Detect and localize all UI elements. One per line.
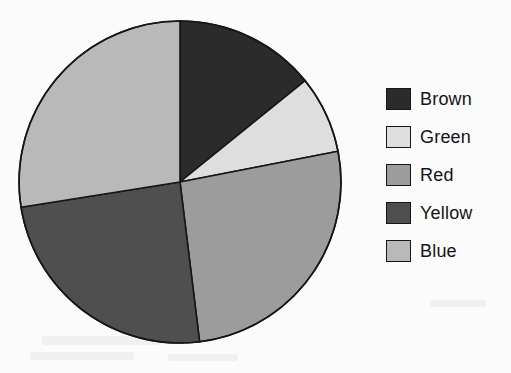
legend-label-yellow: Yellow	[420, 203, 473, 223]
legend-label-brown: Brown	[420, 89, 472, 109]
legend-label-red: Red	[420, 165, 454, 185]
pie-chart-figure: BrownGreenRedYellowBlue	[0, 0, 511, 373]
legend-item-green[interactable]: Green	[386, 118, 506, 156]
legend-item-blue[interactable]: Blue	[386, 232, 506, 270]
legend-item-yellow[interactable]: Yellow	[386, 194, 506, 232]
chart-legend: BrownGreenRedYellowBlue	[386, 80, 506, 270]
pie-slices-group	[19, 21, 341, 343]
legend-swatch-green	[386, 126, 411, 148]
pie-slice-blue[interactable]	[19, 21, 180, 207]
legend-swatch-red	[386, 164, 411, 186]
legend-label-green: Green	[420, 127, 471, 147]
legend-swatch-blue	[386, 240, 411, 262]
legend-item-red[interactable]: Red	[386, 156, 506, 194]
legend-item-brown[interactable]: Brown	[386, 80, 506, 118]
pie-slice-red[interactable]	[180, 151, 341, 342]
legend-swatch-brown	[386, 88, 411, 110]
legend-swatch-yellow	[386, 202, 411, 224]
legend-label-blue: Blue	[420, 241, 457, 261]
pie-slice-yellow[interactable]	[21, 182, 200, 343]
